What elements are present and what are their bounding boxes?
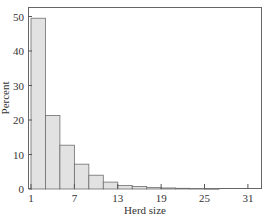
histogram-bar	[31, 18, 45, 189]
histogram-bar	[60, 145, 74, 189]
histogram-bar	[118, 186, 132, 189]
histogram-bar	[147, 188, 161, 189]
histogram-bar	[103, 182, 117, 189]
histogram-bar	[45, 116, 59, 189]
x-tick-label: 25	[199, 192, 211, 204]
x-tick-label: 1	[28, 192, 34, 204]
y-tick-label: 30	[13, 80, 25, 92]
y-tick-label: 50	[13, 11, 25, 23]
y-tick-label: 10	[13, 149, 25, 161]
histogram-bar	[89, 175, 103, 189]
y-tick-label: 0	[19, 183, 25, 195]
histogram-bar	[161, 188, 175, 189]
y-tick-label: 40	[13, 45, 25, 57]
x-axis-title: Herd size	[124, 204, 166, 216]
histogram-bar	[74, 164, 88, 189]
y-axis-title: Percent	[0, 82, 11, 115]
x-tick-label: 31	[242, 192, 253, 204]
x-tick-label: 13	[112, 192, 124, 204]
y-tick-label: 20	[13, 114, 25, 126]
x-tick-label: 7	[72, 192, 78, 204]
x-tick-label: 19	[156, 192, 168, 204]
histogram-bar	[176, 188, 190, 189]
histogram-bar	[132, 187, 146, 189]
histogram-chart: 01020304050 1713192531 Herd size Percent	[0, 0, 268, 219]
